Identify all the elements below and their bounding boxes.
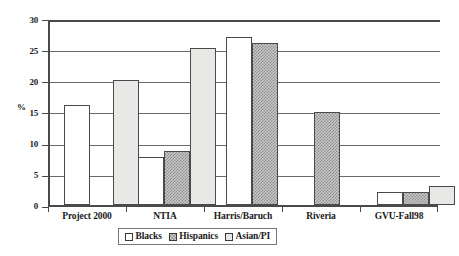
y-axis-label-5: 5 xyxy=(14,171,38,180)
bar-harrisbaruch-blacks xyxy=(226,37,252,205)
y-axis-label-30: 30 xyxy=(14,16,38,25)
y-axis-label-10: 10 xyxy=(14,140,38,149)
y-axis-label-0: 0 xyxy=(14,202,38,211)
x-axis-label-gvu-fall98: GVU-Fall98 xyxy=(360,211,438,221)
bar-gvufall98-asianpi xyxy=(429,186,455,205)
bar-gvufall98-hispanics xyxy=(403,192,429,205)
bar-ntia-hispanics xyxy=(164,151,190,205)
legend-label-hispanics: Hispanics xyxy=(179,232,218,242)
legend-label-asianpi: Asian/PI xyxy=(236,232,271,242)
y-axis-label-15: 15 xyxy=(14,109,38,118)
chart-legend: Blacks Hispanics Asian/PI xyxy=(118,228,277,245)
bar-project2000-hispanics xyxy=(113,80,139,205)
gridline-30 xyxy=(50,20,440,22)
x-axis-label-riveria: Riveria xyxy=(282,211,360,221)
legend-swatch-blacks-icon xyxy=(125,233,133,241)
x-axis-label-ntia: NTIA xyxy=(126,211,204,221)
legend-item-asianpi: Asian/PI xyxy=(225,232,270,242)
legend-item-hispanics: Hispanics xyxy=(169,232,218,242)
bar-riveria-hispanics xyxy=(314,112,340,205)
bar-chart: % 30 25 20 15 10 5 0 xyxy=(0,0,459,256)
bar-project2000-blacks xyxy=(64,105,90,205)
y-axis-label-20: 20 xyxy=(14,78,38,87)
plot-area xyxy=(48,20,438,207)
bar-gvufall98-blacks xyxy=(377,192,403,205)
legend-swatch-hispanics-icon xyxy=(169,233,177,241)
bar-ntia-asianpi xyxy=(190,48,216,205)
bar-harrisbaruch-hispanics xyxy=(252,43,278,205)
legend-swatch-asianpi-icon xyxy=(225,233,233,241)
bar-ntia-blacks xyxy=(138,157,164,205)
x-axis-label-harris-baruch: Harris/Baruch xyxy=(204,211,282,221)
legend-item-blacks: Blacks xyxy=(125,232,162,242)
x-axis-label-project-2000: Project 2000 xyxy=(48,211,126,221)
y-axis-label-25: 25 xyxy=(14,47,38,56)
legend-label-blacks: Blacks xyxy=(136,232,162,242)
